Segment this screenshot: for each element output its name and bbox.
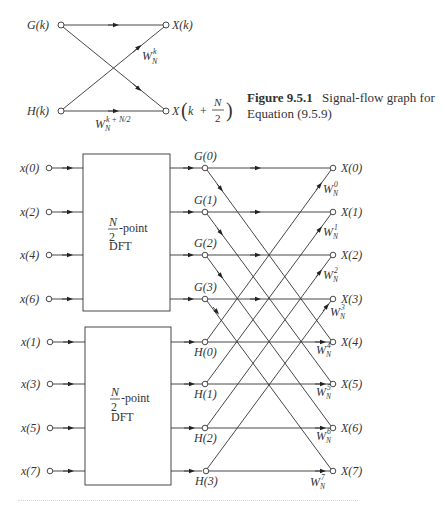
svg-text:N: N: [339, 312, 346, 321]
svg-text:2: 2: [215, 112, 221, 124]
input-edges: [52, 168, 85, 471]
svg-text:X: X: [171, 104, 180, 118]
svg-text:1: 1: [334, 223, 338, 232]
node-g: [58, 22, 64, 28]
svg-text:N: N: [110, 385, 120, 399]
output-label: X(5): [340, 377, 362, 391]
output-label: X(2): [340, 248, 362, 262]
output-label: X(1): [340, 205, 362, 219]
input-nodes: [46, 165, 53, 474]
input-label: x(2): [19, 205, 39, 219]
butterfly-horizontal-edges: [208, 168, 330, 471]
twiddle-w0: W 0 N: [323, 180, 339, 198]
svg-text:N: N: [332, 275, 339, 284]
output-label: X(4): [340, 335, 362, 349]
output-label: X(6): [340, 421, 362, 435]
svg-text:DFT: DFT: [111, 410, 134, 424]
svg-text:): ): [226, 99, 233, 122]
svg-text:7: 7: [321, 473, 325, 482]
cutoff-caption-sliver: [18, 498, 358, 505]
weight-cross: W k N: [142, 47, 158, 66]
g-label: G(2): [194, 236, 217, 250]
h-label: H(3): [194, 474, 218, 488]
input-label: x(6): [19, 292, 39, 306]
twiddle-w4: W 4 N: [316, 341, 332, 359]
svg-text:N: N: [325, 392, 332, 401]
svg-text:2: 2: [334, 266, 338, 275]
svg-text:0: 0: [334, 180, 338, 189]
butterfly-diagonals-g: [207, 170, 331, 469]
fft-diagrams: G(k) X(k) H(k) X ( k + N 2 ) W k N W k +…: [0, 0, 443, 505]
input-label: x(7): [20, 464, 40, 478]
input-label: x(1): [20, 335, 40, 349]
figure-caption-text: Signal-flow graph for: [322, 90, 435, 105]
h-label: H(0): [193, 345, 217, 359]
butterfly-diagonals-h: [207, 170, 331, 469]
twiddle-w3: W 3 N: [330, 303, 346, 321]
svg-text:N: N: [213, 96, 222, 108]
output-nodes: [330, 165, 336, 474]
butterfly-graph: [63, 25, 164, 111]
svg-text:-point: -point: [119, 221, 148, 235]
input-label: x(3): [20, 377, 40, 391]
svg-text:DFT: DFT: [109, 239, 132, 253]
node-xkn2: [163, 108, 169, 114]
weight-bottom: W k + N/2 N: [95, 115, 131, 133]
svg-text:5: 5: [327, 383, 331, 392]
figure-caption: Figure 9.5.1 Signal-flow graph for Equat…: [247, 90, 435, 122]
intermediate-nodes: [202, 165, 209, 474]
input-label: x(4): [19, 248, 39, 262]
svg-text:N: N: [332, 189, 339, 198]
svg-text:N: N: [319, 482, 326, 491]
input-label: x(5): [20, 421, 40, 435]
g-label: G(3): [194, 280, 217, 294]
svg-text:6: 6: [327, 427, 331, 436]
input-labels: x(0) x(2) x(4) x(6) x(1) x(3) x(5) x(7): [19, 161, 40, 478]
h-label: H(2): [193, 431, 217, 445]
output-label: X(7): [340, 464, 362, 478]
svg-text:N: N: [325, 350, 332, 359]
svg-text:N: N: [104, 124, 111, 133]
svg-text:k: k: [188, 104, 194, 118]
arrow-icon: [133, 47, 139, 52]
label-h: H(k): [26, 104, 49, 118]
g-label: G(0): [194, 149, 217, 163]
h-label: H(1): [193, 387, 217, 401]
svg-text:k: k: [153, 47, 157, 56]
figure-caption-label: Figure 9.5.1: [247, 90, 313, 105]
svg-text:(: (: [181, 99, 188, 122]
label-g: G(k): [27, 18, 49, 32]
svg-text:N: N: [151, 57, 158, 66]
input-label: x(0): [19, 161, 39, 175]
label-xkn2: X ( k + N 2 ): [171, 96, 233, 124]
dft-block-odd: [85, 327, 171, 485]
svg-text:-point: -point: [121, 391, 150, 405]
dft-output-edges: [170, 168, 202, 471]
svg-text:3: 3: [340, 303, 345, 312]
node-xk: [163, 22, 169, 28]
svg-text:N: N: [325, 436, 332, 445]
twiddle-w2: W 2 N: [323, 266, 339, 284]
label-xk: X(k): [171, 18, 193, 32]
output-label: X(0): [340, 161, 362, 175]
twiddle-w5: W 5 N: [316, 383, 332, 401]
svg-text:k + N/2: k + N/2: [106, 115, 131, 124]
svg-text:4: 4: [327, 341, 331, 350]
twiddle-w6: W 6 N: [316, 427, 332, 445]
arrow-icon: [133, 84, 139, 89]
dft-block-even-label: N 2 -point DFT: [108, 215, 148, 253]
svg-text:+: +: [200, 104, 207, 118]
svg-text:N: N: [332, 232, 339, 241]
twiddle-w7: W 7 N: [310, 473, 326, 491]
dft-block-odd-label: N 2 -point DFT: [110, 385, 150, 424]
twiddle-w1: W 1 N: [323, 223, 339, 241]
g-label: G(1): [194, 193, 217, 207]
svg-text:N: N: [108, 215, 118, 229]
node-h: [58, 108, 64, 114]
figure-caption-text-line2: Equation (9.5.9): [247, 106, 332, 121]
